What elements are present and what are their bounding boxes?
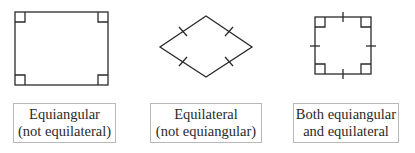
label-line1: Equilateral [151,106,261,123]
equal-side-tick-marks [310,12,376,79]
label-equiangular: Equiangular (not equilateral) [13,103,116,143]
rectangle-outline [15,12,108,85]
rectangle-figure [15,12,108,85]
label-both: Both equiangular and equilateral [293,103,399,143]
equal-side-tick-marks [179,27,233,66]
square-outline [315,17,371,74]
label-line2: (not equilateral) [14,123,115,140]
right-angle-marks [315,17,371,74]
label-line2: and equilateral [294,123,398,140]
right-angle-marks [15,12,108,85]
label-line1: Equiangular [14,106,115,123]
rhombus-outline [160,16,252,77]
label-equilateral: Equilateral (not equiangular) [150,103,262,143]
rhombus-figure [160,16,252,77]
label-line1: Both equiangular [294,106,398,123]
label-line2: (not equiangular) [151,123,261,140]
square-figure [310,12,376,79]
